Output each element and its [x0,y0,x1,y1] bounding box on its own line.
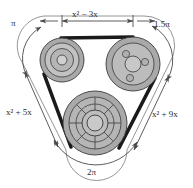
pulley-belt-diagram: x² − 3x π 1.5π x² + 5x x² + 9x 2π [0,0,193,188]
top-right-pulley [106,37,160,91]
top-left-arc-label: π [11,19,16,28]
right-segment-label: x² + 9x [152,110,178,119]
bottom-pulley [63,91,127,155]
bottom-arc-label: 2π [87,168,96,177]
top-segment-label: x² − 3x [72,10,98,19]
top-right-arc-label: 1.5π [154,20,170,29]
left-segment-label: x² + 5x [6,108,32,117]
top-left-pulley [40,38,84,82]
